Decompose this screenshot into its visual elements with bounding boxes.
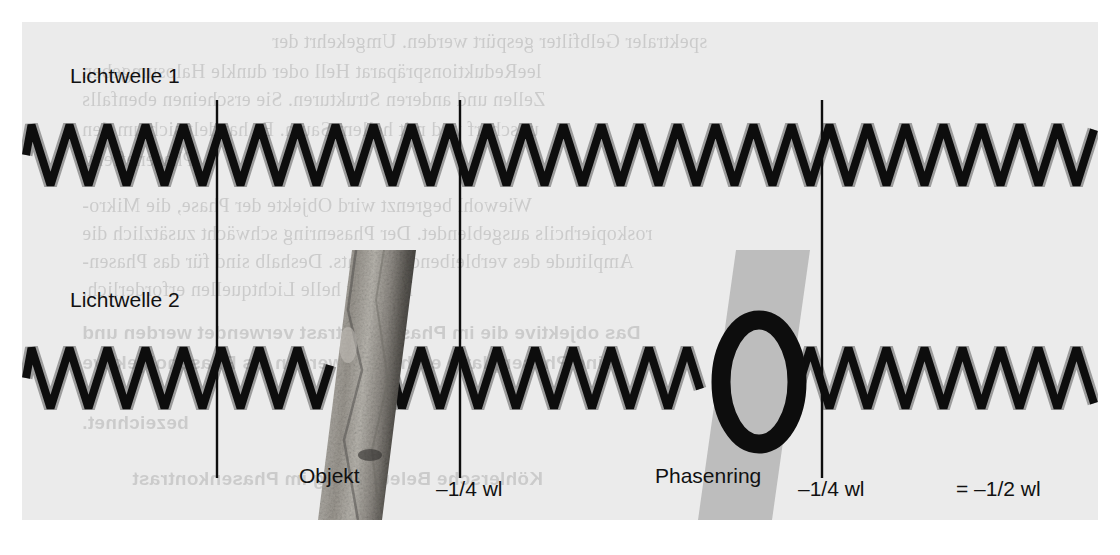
wave-stroke [26, 348, 330, 408]
lichtwelle-1-wave [26, 125, 1094, 185]
label-lichtwelle-2: Lichtwelle 2 [70, 288, 180, 312]
label-shift-1: –1/4 wl [436, 477, 503, 501]
label-lichtwelle-1: Lichtwelle 1 [70, 64, 180, 88]
label-total-shift: = –1/2 wl [956, 477, 1041, 501]
waves-and-markers [22, 22, 1098, 520]
scanned-page-area: spektraler Gelbfilter gespürt werden. Um… [22, 22, 1098, 520]
label-objekt: Objekt [299, 464, 360, 488]
phase-contrast-figure: spektraler Gelbfilter gespürt werden. Um… [0, 0, 1120, 555]
label-phasenring: Phasenring [655, 464, 761, 488]
label-shift-2: –1/4 wl [798, 477, 865, 501]
lichtwelle-2-wave [26, 348, 1094, 408]
